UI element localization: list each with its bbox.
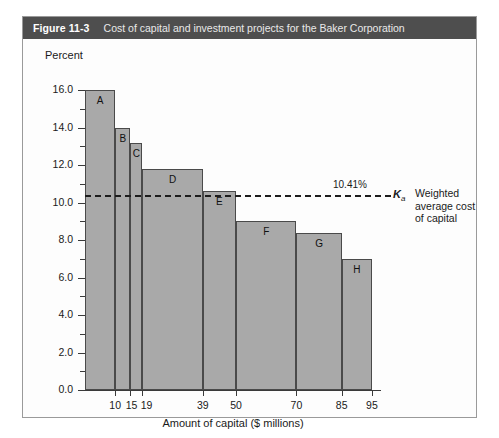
y-tick-major: 6.0 [78, 278, 85, 279]
x-tick-label: 15 [126, 399, 138, 411]
y-tick-label: 16.0 [53, 83, 73, 95]
bar-label: A [86, 95, 114, 106]
x-tick-label: 39 [197, 399, 209, 411]
figure-title-bar: Figure 11-3 Cost of capital and investme… [23, 17, 476, 39]
y-tick-label: 4.0 [58, 308, 73, 320]
x-tick-label: 85 [336, 399, 348, 411]
wacc-symbol-sub: a [401, 194, 405, 203]
x-tick-label: 70 [291, 399, 303, 411]
bar-E: E [203, 191, 236, 390]
bar-H: H [342, 259, 372, 390]
x-tick [203, 390, 204, 396]
x-tick [342, 390, 343, 396]
bar-A: A [85, 90, 115, 390]
bar-label: C [131, 148, 141, 159]
wacc-description: Weighted average cost of capital [415, 187, 477, 225]
x-tick [372, 390, 373, 396]
bar-G: G [296, 233, 341, 391]
y-tick-major: 0.0 [78, 390, 85, 391]
y-tick-major: 2.0 [78, 353, 85, 354]
y-tick-major: 10.0 [78, 203, 85, 204]
figure-caption: Cost of capital and investment projects … [104, 22, 405, 34]
y-tick-label: 12.0 [53, 158, 73, 170]
y-tick-major: 4.0 [78, 315, 85, 316]
wacc-dashed-line [85, 195, 391, 197]
y-tick-label: 2.0 [58, 346, 73, 358]
x-tick-label: 95 [366, 399, 378, 411]
bar-F: F [236, 221, 296, 390]
figure-number: Figure 11-3 [33, 22, 90, 34]
wacc-value-label: 10.41% [333, 179, 367, 190]
x-tick [236, 390, 237, 396]
x-axis-title: Amount of capital ($ millions) [85, 417, 381, 429]
y-tick-major: 8.0 [78, 240, 85, 241]
x-tick [130, 390, 131, 396]
y-tick-label: 10.0 [53, 196, 73, 208]
y-tick-label: 14.0 [53, 121, 73, 133]
y-tick-label: 8.0 [58, 233, 73, 245]
y-tick-major: 14.0 [78, 128, 85, 129]
bar-label: E [204, 196, 235, 207]
bar-D: D [142, 169, 202, 390]
figure-panel: Figure 11-3 Cost of capital and investme… [22, 16, 477, 418]
x-tick-label: 10 [109, 399, 121, 411]
wacc-symbol-label: Ka [393, 188, 405, 203]
plot-area: 0.0 2.0 4.0 6.0 8.0 10.0 12.0 [23, 39, 478, 419]
x-tick [142, 390, 143, 396]
x-tick [115, 390, 116, 396]
bar-label: B [116, 133, 129, 144]
y-tick-major: 16.0 [78, 90, 85, 91]
bar-label: D [143, 174, 201, 185]
x-tick-label: 50 [230, 399, 242, 411]
y-tick-label: 0.0 [58, 383, 73, 395]
bar-C: C [130, 143, 142, 391]
x-tick [296, 390, 297, 396]
y-tick-label: 6.0 [58, 271, 73, 283]
y-tick-major: 12.0 [78, 165, 85, 166]
bar-label: H [343, 264, 371, 275]
bar-B: B [115, 128, 130, 391]
figure-screenshot: Figure 11-3 Cost of capital and investme… [0, 0, 499, 438]
bar-label: G [297, 238, 340, 249]
plot-body: Percent 0.0 2.0 4.0 6.0 8.0 [23, 39, 476, 417]
x-tick-label: 19 [141, 399, 153, 411]
bar-label: F [237, 226, 295, 237]
wacc-symbol-k: K [393, 188, 401, 200]
